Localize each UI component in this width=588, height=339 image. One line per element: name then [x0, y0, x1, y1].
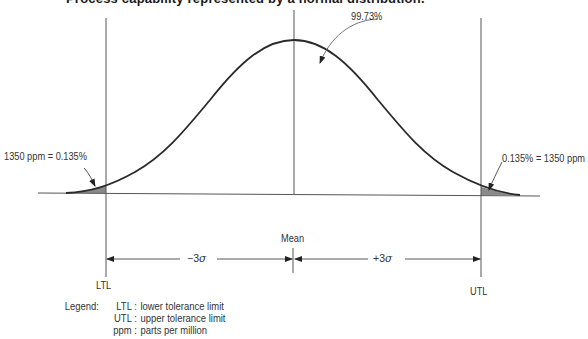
left-tail-pointer	[84, 168, 95, 186]
legend-value: upper tolerance limit	[140, 312, 225, 324]
ltl-label: LTL	[96, 279, 111, 291]
normal-distribution-diagram	[0, 0, 588, 339]
utl-label: UTL	[470, 285, 487, 297]
legend-value: lower tolerance limit	[140, 300, 224, 312]
sigma-symbol: σ	[385, 252, 392, 264]
legend-key: LTL :	[103, 300, 141, 312]
sigma-symbol: σ	[199, 252, 206, 264]
left-tail-label: 1350 ppm = 0.135%	[4, 150, 87, 162]
legend: Legend: LTL : lower tolerance limit UTL …	[54, 300, 245, 336]
mean-label: Mean	[281, 232, 304, 244]
baseline	[38, 193, 540, 196]
center-area-pointer	[320, 19, 378, 63]
bell-curve	[66, 40, 520, 195]
minus-3sigma-label: −3σ	[183, 252, 210, 264]
legend-key: UTL :	[103, 312, 141, 324]
legend-row: ppm : parts per million	[54, 324, 225, 336]
plus-3sigma-label: +3σ	[369, 252, 396, 264]
legend-heading: Legend:	[54, 300, 103, 312]
legend-key: ppm :	[103, 324, 141, 336]
legend-row: Legend: LTL : lower tolerance limit	[54, 300, 225, 312]
legend-value: parts per million	[140, 324, 207, 336]
center-area-label: 99.73%	[351, 10, 382, 22]
right-tail-pointer	[489, 162, 502, 190]
legend-row: UTL : upper tolerance limit	[54, 312, 225, 324]
right-tail-label: 0.135% = 1350 ppm	[502, 152, 585, 164]
